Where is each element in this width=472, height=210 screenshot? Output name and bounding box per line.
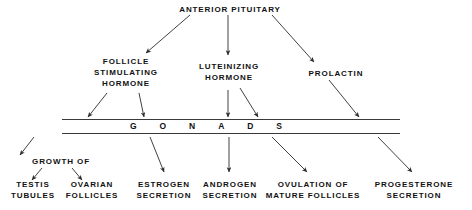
node-growth-of: GROWTH OF	[26, 156, 96, 167]
gonads-letter-o: O	[160, 120, 167, 133]
pituitary-gonad-flow-diagram: ANTERIOR PITUITARY FOLLICLESTIMULATINGHO…	[0, 0, 472, 210]
node-follicle-stimulating-hormone: FOLLICLESTIMULATINGHORMONE	[81, 56, 171, 89]
gonads-letter-g: G	[130, 120, 137, 133]
gonads-letter-s: S	[276, 120, 282, 133]
arrow-gonads-to-growth-of	[20, 137, 34, 155]
gonads-label: G O N A D S	[130, 120, 282, 133]
node-ovarian-follicles: OVARIANFOLLICLES	[56, 179, 128, 201]
node-progesterone-secretion: PROGESTERONESECRETION	[369, 179, 459, 201]
arrow-fsh-to-gonads-left	[88, 93, 107, 117]
arrow-pituitary-to-fsh	[146, 15, 190, 53]
arrow-gonads-to-ovulation	[272, 137, 307, 172]
arrow-lh-to-gonads-right	[240, 88, 258, 117]
arrow-gonads-to-estrogen	[150, 137, 164, 172]
gonads-letter-d: D	[247, 120, 253, 133]
node-androgen-secretion: ANDROGENSECRETION	[194, 179, 266, 201]
node-prolactin: PROLACTIN	[299, 68, 373, 79]
node-estrogen-secretion: ESTROGENSECRETION	[128, 179, 200, 201]
node-anterior-pituitary: ANTERIOR PITUITARY	[170, 4, 290, 15]
arrow-prolactin-to-gonads	[329, 80, 359, 117]
node-luteinizing-hormone: LUTEINIZINGHORMONE	[186, 61, 272, 83]
gonads-letter-a: A	[218, 120, 224, 133]
gonads-letter-n: N	[189, 120, 195, 133]
node-ovulation-mature-follicles: OVULATION OFMATURE FOLLICLES	[262, 179, 364, 201]
node-testis-tubules: TESTISTUBULES	[2, 179, 64, 201]
arrow-pituitary-to-prolactin	[272, 15, 314, 62]
arrow-fsh-to-gonads-right	[139, 93, 144, 117]
arrow-gonads-to-progesterone	[378, 137, 412, 172]
